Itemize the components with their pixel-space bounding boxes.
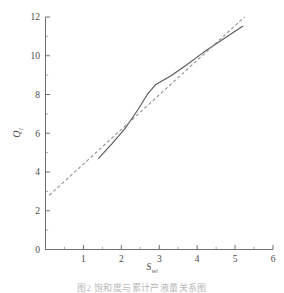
y-axis-title: Ql bbox=[11, 128, 24, 138]
y-tick-label: 8 bbox=[35, 90, 40, 100]
x-axis-tick-labels: 123456 bbox=[81, 254, 276, 264]
axis-lines bbox=[46, 17, 274, 250]
y-axis-subscript: l bbox=[17, 128, 24, 130]
y-tick-label: 4 bbox=[35, 167, 40, 177]
figure-caption: 图2 饱和度与累计产液量关系图 bbox=[0, 282, 284, 293]
y-tick-label: 0 bbox=[35, 245, 40, 255]
x-tick-label: 2 bbox=[119, 254, 124, 264]
series-trend-line bbox=[49, 17, 244, 195]
y-tick-label: 6 bbox=[35, 129, 40, 139]
x-tick-label: 1 bbox=[81, 254, 86, 264]
x-tick-label: 5 bbox=[233, 254, 238, 264]
x-axis-subscript: wi bbox=[152, 267, 158, 274]
x-axis-ticks bbox=[46, 245, 274, 250]
x-tick-label: 6 bbox=[271, 254, 276, 264]
figure-container: 123456 024681012 Swi Ql 图2 饱和度与累计产液量关系图 bbox=[0, 0, 284, 293]
x-tick-label: 3 bbox=[157, 254, 162, 264]
svg-text:Ql: Ql bbox=[11, 128, 24, 138]
data-series-group bbox=[49, 17, 244, 195]
y-tick-label: 10 bbox=[31, 51, 41, 61]
chart-canvas: 123456 024681012 Swi Ql bbox=[0, 0, 284, 293]
y-axis-tick-labels: 024681012 bbox=[31, 12, 41, 255]
series-measured-curve bbox=[99, 26, 243, 158]
y-tick-label: 12 bbox=[31, 12, 41, 22]
y-tick-label: 2 bbox=[35, 206, 40, 216]
x-tick-label: 4 bbox=[195, 254, 200, 264]
y-axis-ticks bbox=[46, 17, 51, 250]
